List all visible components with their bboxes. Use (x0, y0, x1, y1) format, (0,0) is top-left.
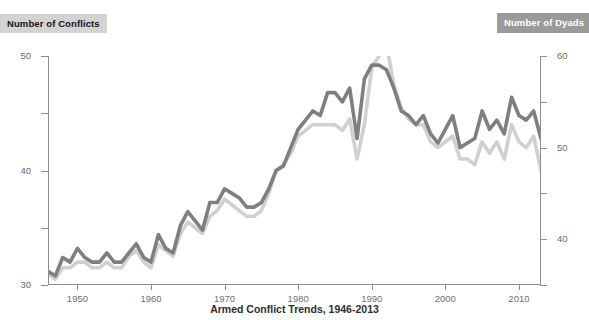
y-left-tick-label: 30 (20, 280, 31, 290)
y-right-tick: 50 (540, 102, 547, 103)
chart-figure: Number of Conflicts Number of Dyads 1020… (0, 0, 589, 320)
x-tick (151, 284, 152, 290)
right-axis-legend-label: Number of Dyads (504, 18, 584, 28)
left-axis-legend-badge: Number of Conflicts (0, 14, 107, 33)
series-lines (48, 56, 541, 285)
y-right-tick-label: 40 (557, 234, 568, 244)
x-tick (225, 284, 226, 290)
x-tick (372, 284, 373, 290)
y-left-tick: 50 (41, 56, 48, 57)
series-line-number-of-dyads (48, 65, 541, 276)
y-right-tick: 20 (540, 239, 547, 240)
right-axis-legend-badge: Number of Dyads (497, 13, 589, 33)
x-tick (445, 284, 446, 290)
plot-area: 1020304050 102030405060 1950196019701980… (48, 56, 541, 285)
y-left-tick: 10 (41, 285, 48, 286)
y-left-tick: 40 (41, 113, 48, 114)
y-right-tick: 40 (540, 148, 547, 149)
y-right-tick: 30 (540, 193, 547, 194)
x-tick (77, 284, 78, 290)
y-axis-left (48, 56, 49, 285)
figure-caption: Armed Conflict Trends, 1946-2013 (0, 303, 589, 315)
y-right-tick-label: 60 (557, 51, 568, 61)
y-right-tick: 60 (540, 56, 547, 57)
y-left-tick: 20 (41, 228, 48, 229)
y-right-tick: 10 (540, 285, 547, 286)
left-axis-legend-label: Number of Conflicts (7, 19, 100, 29)
y-axis-right (540, 56, 541, 285)
x-tick (519, 284, 520, 290)
y-right-tick-label: 50 (557, 143, 568, 153)
x-tick (298, 284, 299, 290)
series-line-number-of-conflicts (48, 56, 541, 279)
x-axis (48, 284, 541, 285)
y-left-tick-label: 40 (20, 166, 31, 176)
y-left-tick-label: 50 (20, 51, 31, 61)
y-left-tick: 30 (41, 171, 48, 172)
